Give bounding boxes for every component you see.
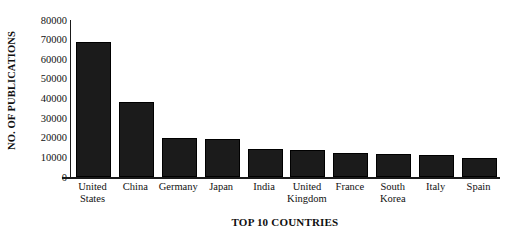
y-axis-tick-label: 80000 bbox=[22, 15, 67, 26]
plot-area bbox=[70, 20, 500, 177]
x-axis-tick-label: Spain bbox=[457, 181, 500, 193]
bar bbox=[119, 102, 154, 177]
x-axis-line bbox=[62, 177, 500, 179]
x-axis-tick-label-line: China bbox=[114, 181, 157, 193]
x-axis-tick-label: UnitedStates bbox=[71, 181, 114, 204]
y-axis-tick-label: 20000 bbox=[22, 132, 67, 143]
bar bbox=[76, 42, 111, 177]
x-axis-tick-label-line: Spain bbox=[457, 181, 500, 193]
x-axis-tick-label-line: France bbox=[328, 181, 371, 193]
x-axis-tick-label: Italy bbox=[414, 181, 457, 193]
bar bbox=[290, 150, 325, 177]
x-axis-tick-label: UnitedKingdom bbox=[286, 181, 329, 204]
x-axis-tick-label: Japan bbox=[200, 181, 243, 193]
x-axis-tick-label: India bbox=[243, 181, 286, 193]
bar bbox=[376, 154, 411, 177]
y-axis-tick-label: 30000 bbox=[22, 113, 67, 124]
y-axis-title-text: NO. OF PUBLICATIONS bbox=[6, 31, 17, 150]
y-axis-tick-label: 70000 bbox=[22, 34, 67, 45]
y-axis-tick-label: 60000 bbox=[22, 54, 67, 65]
x-axis-tick-label: France bbox=[328, 181, 371, 193]
x-axis-tick-labels: UnitedStatesChinaGermanyJapanIndiaUnited… bbox=[71, 181, 501, 215]
x-axis-tick-label-line: United bbox=[286, 181, 329, 193]
x-axis-tick-label: Germany bbox=[157, 181, 200, 193]
x-axis-tick-label: SouthKorea bbox=[371, 181, 414, 204]
x-axis-tick-label-line: United bbox=[71, 181, 114, 193]
bar bbox=[462, 158, 497, 177]
bar bbox=[419, 155, 454, 177]
bar bbox=[162, 138, 197, 177]
bar bbox=[333, 153, 368, 177]
x-axis-tick-label-line: Italy bbox=[414, 181, 457, 193]
bar bbox=[248, 149, 283, 177]
y-axis-tick-label: 10000 bbox=[22, 152, 67, 163]
bar-chart: NO. OF PUBLICATIONS 80000700006000050000… bbox=[0, 0, 508, 237]
x-axis-tick-label-line: Korea bbox=[371, 193, 414, 205]
y-axis-tick-label: 40000 bbox=[22, 93, 67, 104]
x-axis-tick-label-line: Germany bbox=[157, 181, 200, 193]
y-axis-tick-label: 0 bbox=[22, 172, 67, 183]
x-axis-tick-label: China bbox=[114, 181, 157, 193]
x-axis-tick-label-line: Kingdom bbox=[286, 193, 329, 205]
x-axis-tick-label-line: South bbox=[371, 181, 414, 193]
y-axis-tick-labels: 8000070000600005000040000300002000010000… bbox=[22, 14, 67, 184]
x-axis-tick-label-line: India bbox=[243, 181, 286, 193]
x-axis-tick-label-line: States bbox=[71, 193, 114, 205]
bars-layer bbox=[71, 20, 500, 177]
x-axis-title: TOP 10 COUNTRIES bbox=[70, 216, 500, 228]
y-axis-tick-label: 50000 bbox=[22, 73, 67, 84]
bar bbox=[205, 139, 240, 177]
x-axis-tick-label-line: Japan bbox=[200, 181, 243, 193]
y-axis-title: NO. OF PUBLICATIONS bbox=[0, 0, 22, 180]
